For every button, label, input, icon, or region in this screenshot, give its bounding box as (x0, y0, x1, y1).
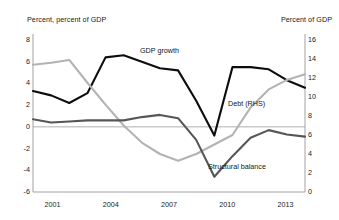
series-label-gdp-growth: GDP growth (140, 46, 179, 55)
series-line-debt-rhs (33, 60, 305, 161)
plot-area (0, 0, 339, 220)
chart-container: Percent, percent of GDP Percent of GDP 8… (0, 0, 339, 220)
series-label-structural: Structural balance (208, 162, 266, 171)
series-label-debt: Debt (RHS) (228, 99, 265, 108)
